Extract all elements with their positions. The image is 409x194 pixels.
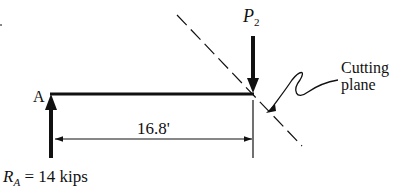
point-load-arrow-icon	[247, 36, 259, 93]
cutting-plane-leader-icon	[266, 73, 338, 114]
cutting-plane-label-line1: Cutting	[341, 60, 389, 76]
reaction-value: 14 kips	[38, 167, 88, 186]
cutting-plane-line	[177, 15, 302, 146]
reaction-symbol: R	[3, 167, 13, 186]
beam-diagram	[0, 0, 409, 194]
reaction-equals: =	[20, 167, 38, 186]
span-dimension-label: 16.8'	[137, 120, 170, 137]
reaction-arrow-icon	[45, 94, 57, 158]
point-a-label: A	[33, 89, 45, 105]
point-load-label: P2	[243, 7, 260, 25]
point-load-subscript: 2	[254, 16, 260, 28]
scan-mark	[0, 24, 2, 26]
point-load-symbol: P	[243, 6, 254, 26]
reaction-subscript: A	[13, 176, 20, 188]
cutting-plane-label-line2: plane	[341, 77, 376, 93]
reaction-label: RA = 14 kips	[3, 168, 88, 185]
